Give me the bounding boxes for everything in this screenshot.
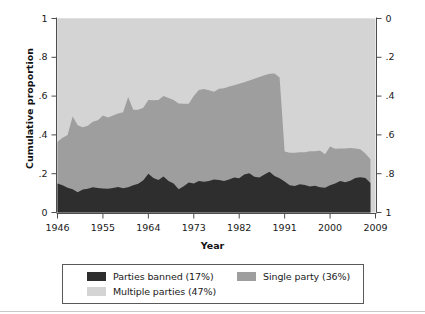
x-tick-7: 2009 xyxy=(356,222,396,233)
legend-item-multiple-parties[interactable]: Multiple parties (47%) xyxy=(71,286,221,297)
x-tick-0: 1946 xyxy=(38,222,78,233)
legend-row-2: Multiple parties (47%) xyxy=(71,284,357,299)
chart-legend: Parties banned (17%) Single party (36%) … xyxy=(62,264,364,304)
x-tick-6: 2000 xyxy=(310,222,350,233)
y-tick-right-0: 0 xyxy=(386,13,410,24)
legend-label-single-party: Single party (36%) xyxy=(263,271,350,282)
x-tick-1: 1955 xyxy=(83,222,123,233)
y-tick-right-1: .2 xyxy=(386,51,410,62)
legend-item-single-party[interactable]: Single party (36%) xyxy=(221,271,350,282)
y-tick-right-3: .6 xyxy=(386,129,410,140)
x-tick-4: 1982 xyxy=(219,222,259,233)
legend-label-multiple-parties: Multiple parties (47%) xyxy=(113,286,216,297)
chart-figure: Cumulative proportion Year 0.2.4.6.810.2… xyxy=(0,0,425,314)
legend-item-parties-banned[interactable]: Parties banned (17%) xyxy=(71,271,221,282)
legend-swatch-parties-banned xyxy=(87,272,106,281)
y-tick-left-3: .6 xyxy=(24,90,48,101)
bottom-divider xyxy=(0,311,425,312)
y-tick-right-4: .8 xyxy=(386,168,410,179)
area-series-group xyxy=(58,19,371,213)
legend-swatch-single-party xyxy=(237,272,256,281)
x-tick-5: 1991 xyxy=(265,222,305,233)
y-tick-left-2: .4 xyxy=(24,129,48,140)
legend-row-1: Parties banned (17%) Single party (36%) xyxy=(71,269,357,284)
y-tick-left-5: 1 xyxy=(24,13,48,24)
y-tick-left-0: 0 xyxy=(24,207,48,218)
x-tick-2: 1964 xyxy=(128,222,168,233)
legend-label-parties-banned: Parties banned (17%) xyxy=(113,271,214,282)
x-axis-label: Year xyxy=(0,240,425,251)
y-tick-left-1: .2 xyxy=(24,168,48,179)
y-tick-right-2: .4 xyxy=(386,90,410,101)
y-tick-right-5: 1 xyxy=(386,207,410,218)
legend-swatch-multiple-parties xyxy=(87,287,106,296)
x-tick-3: 1973 xyxy=(174,222,214,233)
y-tick-left-4: .8 xyxy=(24,51,48,62)
